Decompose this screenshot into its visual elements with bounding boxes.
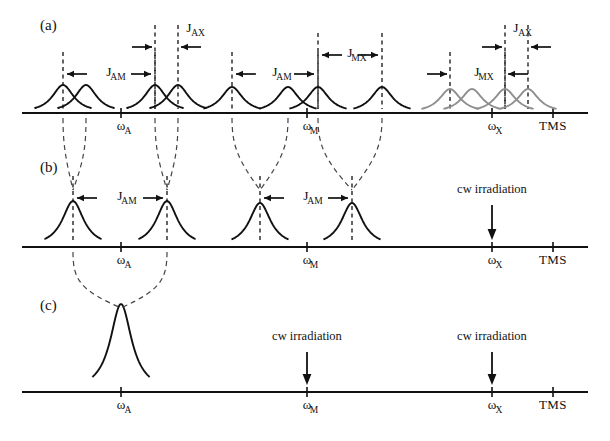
coupling-label-J_MX: JMX	[347, 45, 366, 63]
arrow-head	[440, 71, 447, 77]
coupling-label-J_AM-right: JAM	[303, 188, 323, 206]
cw-irradiation-X: cw irradiation	[457, 329, 528, 385]
axis-tick-label-tms: TMS	[539, 252, 567, 267]
axis-label-subscript: A	[125, 260, 132, 270]
axis-label-text: TMS	[539, 118, 567, 133]
coupling-arrow	[132, 44, 152, 50]
coupling-label-J_AM-left: JAM	[106, 64, 126, 82]
axis-label-subscript: X	[496, 405, 503, 415]
panel-label-b: (b)	[40, 159, 58, 176]
coupling-arrow	[67, 71, 87, 77]
coupling-label-subscript: AM	[121, 196, 137, 206]
correlation-curve	[232, 118, 260, 190]
correlation-curve	[167, 118, 178, 190]
correlation-curve	[352, 118, 382, 190]
coupling-arrow	[328, 195, 348, 201]
arrow-head	[181, 44, 188, 50]
coupling-label-J_AX-x: JAX	[513, 20, 532, 38]
arrow-head	[264, 195, 271, 201]
nmr-decoupling-figure: (a)ωAωMωXTMSJAMJAXJAMJMXJMXJAX(b)ωAωMωXT…	[0, 0, 610, 441]
arrow-head	[67, 71, 74, 77]
arrow-head	[341, 195, 348, 201]
axis-label-subscript: M	[310, 260, 319, 270]
cw-irradiation-M: cw irradiation	[272, 329, 343, 385]
coupling-arrow	[294, 71, 314, 77]
figure-canvas: (a)ωAωMωXTMSJAMJAXJAMJMXJMXJAX(b)ωAωMωXT…	[0, 0, 610, 441]
coupling-label-J_AM-left: JAM	[117, 188, 137, 206]
arrow-head	[236, 71, 243, 77]
correlation-curve	[155, 118, 167, 190]
cw-irradiation-label: cw irradiation	[457, 329, 528, 343]
cw-arrow-head	[488, 229, 497, 240]
axis-tick-label-omega-X: ωX	[488, 397, 503, 415]
cw-irradiation-label: cw irradiation	[457, 182, 528, 196]
axis-tick-label-tms: TMS	[539, 118, 567, 133]
axis-label-subscript: M	[310, 405, 319, 415]
arrow-head	[156, 195, 163, 201]
axis-tick-label-omega-M: ωM	[303, 397, 319, 415]
cw-arrow-head	[488, 374, 497, 385]
coupling-arrow	[236, 71, 256, 77]
arrow-head	[77, 195, 84, 201]
arrow-head	[145, 44, 152, 50]
correlation-curve	[63, 118, 73, 190]
axis-label-text: TMS	[539, 252, 567, 267]
coupling-arrow	[427, 71, 447, 77]
coupling-label-subscript: MX	[478, 72, 493, 82]
coupling-arrow	[508, 71, 528, 77]
coupling-arrow	[131, 71, 151, 77]
coupling-arrow	[482, 44, 502, 50]
coupling-label-subscript: AM	[307, 196, 323, 206]
cw-arrow-head	[303, 374, 312, 385]
correlation-curve	[260, 118, 288, 190]
axis-tick-label-omega-X: ωX	[488, 252, 503, 270]
peak-a-X	[499, 89, 556, 109]
correlation-curve	[73, 118, 86, 190]
coupling-label-subscript: AM	[276, 72, 292, 82]
coupling-label-subscript: AM	[110, 72, 126, 82]
axis-tick-label-tms: TMS	[539, 397, 567, 412]
axis-tick-label-omega-A: ωA	[117, 118, 132, 136]
coupling-label-subscript: MX	[351, 53, 366, 63]
coupling-arrow	[143, 195, 163, 201]
arrow-head	[371, 52, 378, 58]
correlation-curve	[318, 118, 352, 190]
axis-label-subscript: A	[125, 405, 132, 415]
arrow-head	[307, 71, 314, 77]
coupling-arrow	[531, 44, 551, 50]
arrow-head	[322, 52, 329, 58]
peak-c-A	[92, 304, 149, 377]
coupling-arrow	[322, 52, 342, 58]
axis-label-subscript: M	[310, 126, 319, 136]
coupling-arrow	[181, 44, 201, 50]
axis-label-text: TMS	[539, 397, 567, 412]
arrow-head	[508, 71, 515, 77]
axis-tick-label-omega-A: ωA	[117, 252, 132, 270]
panel-label-a: (a)	[40, 17, 57, 34]
cw-irradiation-X: cw irradiation	[457, 182, 528, 240]
coupling-label-subscript: AX	[518, 28, 532, 38]
coupling-arrow	[264, 195, 284, 201]
axis-tick-label-omega-M: ωM	[303, 252, 319, 270]
axis-tick-label-omega-X: ωX	[488, 118, 503, 136]
cw-irradiation-label: cw irradiation	[272, 329, 343, 343]
arrow-head	[144, 71, 151, 77]
axis-label-subscript: X	[496, 260, 503, 270]
peak-a-A	[57, 85, 114, 108]
correlation-curve	[73, 252, 121, 308]
coupling-label-J_AM-right: JAM	[272, 64, 292, 82]
coupling-label-subscript: AX	[191, 28, 205, 38]
axis-label-subscript: A	[125, 126, 132, 136]
coupling-arrow	[77, 195, 97, 201]
arrow-head	[495, 44, 502, 50]
coupling-label-J_AX-left: JAX	[186, 20, 205, 38]
axis-tick-label-omega-M: ωM	[303, 118, 319, 136]
axis-label-subscript: X	[496, 126, 503, 136]
arrow-head	[531, 44, 538, 50]
axis-tick-label-omega-A: ωA	[117, 397, 132, 415]
coupling-label-J_MX-x: JMX	[474, 64, 493, 82]
peak-a-M	[353, 87, 410, 109]
panel-label-c: (c)	[40, 297, 57, 314]
